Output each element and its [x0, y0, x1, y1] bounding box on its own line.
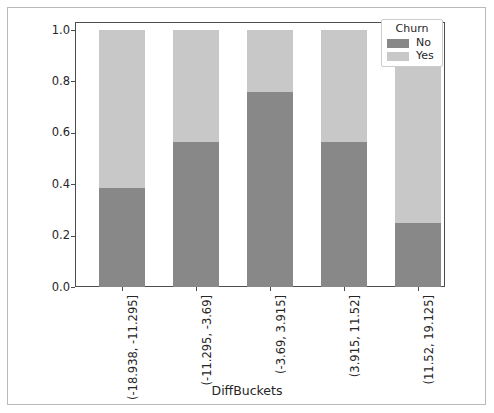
x-tick-mark [122, 287, 123, 291]
bar-segment-no [173, 142, 219, 287]
legend-swatch-yes [387, 52, 409, 61]
bar-group[interactable] [173, 30, 219, 287]
bar-group[interactable] [247, 30, 293, 287]
x-axis-label: DiffBuckets [0, 383, 494, 398]
x-tick-mark [196, 287, 197, 291]
y-axis-tick-labels: 1.0 0.8 0.6 0.4 0.2 0.0 [28, 0, 70, 413]
bar-group[interactable] [395, 30, 441, 287]
bar-group[interactable] [99, 30, 145, 287]
legend[interactable]: Churn No Yes [381, 19, 443, 67]
bar-segment-no [321, 142, 367, 287]
y-tick-label: 0.8 [36, 76, 70, 88]
bar-segment-yes [321, 30, 367, 142]
bar-group[interactable] [321, 30, 367, 287]
y-tick-label: 0.0 [36, 282, 70, 294]
legend-item-no[interactable]: No [387, 37, 437, 49]
bar-segment-yes [99, 30, 145, 188]
legend-label-no: No [416, 37, 431, 49]
bar-segment-no [99, 188, 145, 287]
y-tick-mark [71, 287, 75, 288]
bar-segment-no [247, 92, 293, 287]
bars-layer [75, 30, 445, 287]
bar-segment-no [395, 223, 441, 287]
y-tick-label: 0.4 [36, 179, 70, 191]
x-tick-mark [270, 287, 271, 291]
chart-figure: 1.0 0.8 0.6 0.4 0.2 0.0 [0, 0, 494, 413]
bar-segment-yes [247, 30, 293, 92]
bar-segment-yes [173, 30, 219, 142]
legend-item-yes[interactable]: Yes [387, 50, 437, 62]
x-tick-mark [344, 287, 345, 291]
legend-swatch-no [387, 39, 409, 48]
y-tick-label: 0.6 [36, 127, 70, 139]
y-tick-label: 0.2 [36, 230, 70, 242]
y-tick-label: 1.0 [36, 25, 70, 37]
legend-title: Churn [387, 23, 437, 35]
legend-label-yes: Yes [416, 50, 434, 62]
x-tick-mark [418, 287, 419, 291]
